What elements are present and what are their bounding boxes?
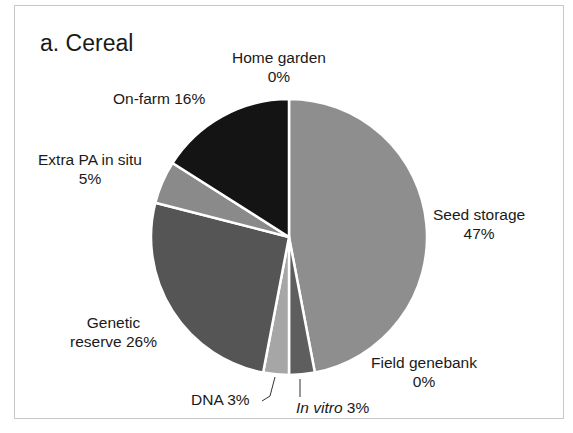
label-in-vitro-pct: 3% [343,399,370,416]
label-genetic-reserve-pct: reserve 26% [70,332,157,351]
label-extra-pa-name: Extra PA in situ [38,150,142,169]
label-dna-text: DNA 3% [191,391,250,408]
label-in-vitro: In vitro 3% [296,398,369,417]
label-genetic-reserve: Genetic reserve 26% [70,313,157,351]
label-field-genebank: Field genebank 0% [371,353,477,391]
pie-slice-seed-storage [289,99,427,373]
label-on-farm-text: On-farm 16% [113,89,205,108]
pie-slices [151,99,427,375]
label-seed-storage: Seed storage 47% [433,205,525,243]
leader-lines [262,377,300,401]
label-dna: DNA 3% [191,390,250,409]
label-extra-pa: Extra PA in situ 5% [38,150,142,188]
label-seed-storage-pct: 47% [433,224,525,243]
label-in-vitro-name: In vitro [296,399,343,416]
label-genetic-reserve-name: Genetic [70,313,157,332]
label-on-farm: On-farm 16% [113,89,205,108]
dna-leader-line [262,377,275,401]
label-home-garden: Home garden 0% [232,48,326,86]
label-home-garden-name: Home garden [232,48,326,67]
label-field-genebank-pct: 0% [371,372,477,391]
label-field-genebank-name: Field genebank [371,353,477,372]
label-seed-storage-name: Seed storage [433,205,525,224]
label-extra-pa-pct: 5% [38,169,142,188]
label-home-garden-pct: 0% [232,67,326,86]
